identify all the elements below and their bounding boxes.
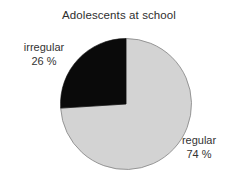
pie-label-regular-name: regular [182,134,216,146]
pie-chart-figure: Adolescents at school irregular 26 % reg… [0,0,238,175]
pie-label-irregular-value: 26 % [13,55,75,69]
pie-label-regular: regular 74 % [168,134,230,161]
pie-label-irregular: irregular 26 % [13,41,75,68]
pie-label-irregular-name: irregular [24,41,64,53]
pie-label-regular-value: 74 % [168,148,230,162]
